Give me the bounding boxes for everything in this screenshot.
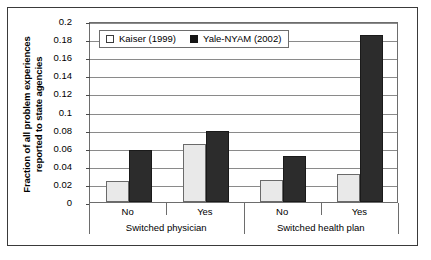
y-axis-tick-label: 0.02 bbox=[32, 179, 72, 190]
x-axis-group-label: Switched health plan bbox=[236, 222, 406, 233]
y-axis-tick-mark bbox=[86, 132, 90, 133]
bar-kaiser-1999-yes-1 bbox=[183, 144, 206, 202]
y-axis-tick-label: 0.12 bbox=[32, 88, 72, 99]
x-axis-category-label: No bbox=[93, 206, 163, 217]
gridline bbox=[90, 114, 397, 115]
bar-kaiser-1999-yes-3 bbox=[337, 174, 360, 202]
y-axis-tick-mark bbox=[86, 150, 90, 151]
y-axis-tick-mark bbox=[86, 95, 90, 96]
gridline bbox=[90, 59, 397, 60]
gridline bbox=[90, 95, 397, 96]
x-axis-category-label: Yes bbox=[170, 206, 240, 217]
gridline bbox=[90, 132, 397, 133]
x-axis-group-label: Switched physician bbox=[81, 222, 251, 233]
y-axis-tick-label: 0.18 bbox=[32, 34, 72, 45]
y-axis-tick-label: 0.06 bbox=[32, 143, 72, 154]
y-axis-tick-label: 0.1 bbox=[32, 107, 72, 118]
x-axis-category-label: No bbox=[247, 206, 317, 217]
y-axis-tick-label: 0.08 bbox=[32, 125, 72, 136]
legend-swatch-icon-yale-nyam bbox=[190, 35, 198, 43]
x-axis-separator bbox=[321, 203, 322, 215]
gridline bbox=[90, 77, 397, 78]
plot-area: Kaiser (1999) Yale-NYAM (2002) bbox=[89, 22, 398, 203]
bar-yale-nyam-2002-yes-1 bbox=[206, 131, 229, 202]
legend-label-yale-nyam: Yale-NYAM (2002) bbox=[203, 33, 281, 44]
legend-entry-yale-nyam: Yale-NYAM (2002) bbox=[190, 33, 281, 44]
y-axis-tick-label: 0.2 bbox=[32, 16, 72, 27]
legend-swatch-icon-kaiser bbox=[106, 35, 114, 43]
x-axis-separator bbox=[166, 203, 167, 215]
y-axis-tick-mark bbox=[86, 114, 90, 115]
bar-yale-nyam-2002-no-2 bbox=[283, 156, 306, 202]
legend-entry-kaiser: Kaiser (1999) bbox=[106, 33, 176, 44]
y-axis-tick-label: 0.14 bbox=[32, 70, 72, 81]
y-axis-tick-mark bbox=[86, 59, 90, 60]
y-axis-title-line-1: Fraction of all problem experiences bbox=[21, 15, 33, 215]
x-axis-category-label: Yes bbox=[324, 206, 394, 217]
chart-figure: Fraction of all problem experiences repo… bbox=[7, 7, 418, 246]
y-axis-tick-label: 0.04 bbox=[32, 161, 72, 172]
y-axis-tick-mark bbox=[86, 168, 90, 169]
y-axis-tick-mark bbox=[86, 41, 90, 42]
bar-yale-nyam-2002-no-0 bbox=[129, 150, 152, 202]
y-axis-tick-mark bbox=[86, 186, 90, 187]
legend-label-kaiser: Kaiser (1999) bbox=[119, 33, 176, 44]
y-axis-tick-label: 0 bbox=[32, 197, 72, 208]
y-axis-tick-mark bbox=[86, 23, 90, 24]
gridline bbox=[90, 23, 397, 24]
bar-yale-nyam-2002-yes-3 bbox=[360, 35, 383, 202]
y-axis-tick-label: 0.16 bbox=[32, 52, 72, 63]
chart-legend: Kaiser (1999) Yale-NYAM (2002) bbox=[99, 30, 289, 48]
bar-kaiser-1999-no-0 bbox=[106, 181, 129, 202]
bar-kaiser-1999-no-2 bbox=[260, 180, 283, 202]
y-axis-tick-mark bbox=[86, 77, 90, 78]
